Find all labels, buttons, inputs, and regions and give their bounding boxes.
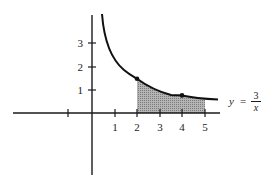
curve-y-equals-3-over-x <box>102 14 218 100</box>
y-tick-label-3: 3 <box>78 37 84 49</box>
x-tick-label-4: 4 <box>179 121 185 133</box>
svg-text:3: 3 <box>254 90 259 101</box>
svg-text:x: x <box>253 102 259 113</box>
function-label: y = 3 x <box>228 90 261 113</box>
y-tick-label-1: 1 <box>78 84 84 96</box>
x-tick-label-5: 5 <box>202 121 208 133</box>
chart-canvas: 1 2 3 4 5 3 2 1 y = 3 x <box>0 0 266 181</box>
svg-text:=: = <box>240 95 246 107</box>
x-tick-label-3: 3 <box>157 121 163 133</box>
svg-text:y: y <box>228 95 234 107</box>
point-x2 <box>135 76 140 81</box>
point-x4 <box>180 93 185 98</box>
x-tick-label-2: 2 <box>134 121 140 133</box>
y-tick-label-2: 2 <box>78 61 84 73</box>
x-tick-label-1: 1 <box>112 121 118 133</box>
